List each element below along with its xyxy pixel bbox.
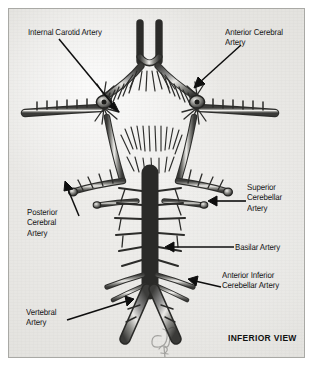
leader-anterior-cerebral — [194, 45, 241, 88]
leader-internal-carotid — [59, 39, 119, 112]
illustration-plate: Internal Carotid Artery Anterior Cerebra… — [8, 8, 305, 358]
label-posterior-cerebral-artery: Posterior Cerebral Artery — [27, 207, 57, 238]
label-internal-carotid-artery: Internal Carotid Artery — [28, 27, 102, 37]
inferior-view-label: INFERIOR VIEW — [228, 333, 297, 343]
label-superior-cerebellar-artery: Superior Cerebellar Artery — [247, 182, 282, 213]
anterior-cerebral-arteries — [105, 23, 196, 97]
label-vertebral-artery: Vertebral Artery — [26, 307, 56, 328]
leader-superior-cerebellar — [208, 196, 246, 206]
label-basilar-artery: Basilar Artery — [235, 242, 280, 252]
leader-posterior-cerebral — [64, 181, 79, 216]
internal-carotid-arteries — [25, 96, 275, 113]
anatomical-figure: Internal Carotid Artery Anterior Cerebra… — [0, 0, 319, 386]
leader-vertebral — [67, 296, 134, 320]
label-anterior-cerebral-artery: Anterior Cerebral Artery — [225, 27, 283, 48]
label-anterior-inferior-cerebellar-artery: Anterior Inferior Cerebellar Artery — [222, 270, 279, 291]
